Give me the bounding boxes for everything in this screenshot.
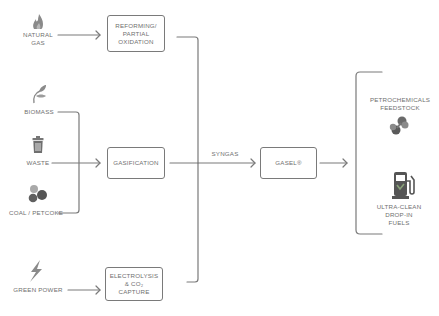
fuels-line3: FUELS [370,219,428,227]
natural-gas-label: NATURAL GAS [20,31,56,47]
gasification-box: GASIFICATION [107,147,165,179]
electrolysis-line2: & CO₂ [110,280,159,288]
connector-lines [0,0,439,316]
reforming-line1: REFORMING/ [115,22,157,30]
leaf-icon [30,84,50,104]
petrochemicals-feedstock-label: PETROCHEMICALS FEEDSTOCK [368,96,432,112]
coal-petcoke-label: COAL / PETCOKE [9,209,57,217]
electrolysis-line3: CAPTURE [110,288,159,296]
ultra-clean-fuels-label: ULTRA-CLEAN DROP-IN FUELS [370,203,428,227]
natural-gas-line2: GAS [20,39,56,47]
natural-gas-line1: NATURAL [20,31,56,39]
reforming-line2: PARTIAL [115,30,157,38]
green-power-label: GREEN POWER [12,286,64,294]
petrochemicals-line1: PETROCHEMICALS [368,96,432,104]
trash-can-icon [32,136,44,153]
petrochemicals-line2: FEEDSTOCK [368,104,432,112]
flame-icon [32,14,44,30]
fuel-pump-icon [392,172,418,200]
gasification-label: GASIFICATION [113,159,159,167]
fuels-line1: ULTRA-CLEAN [370,203,428,211]
reforming-partial-oxidation-box: REFORMING/ PARTIAL OXIDATION [107,15,165,52]
gasel-label: GASEL® [275,159,301,167]
waste-label: WASTE [22,159,54,167]
biomass-label: BIOMASS [22,108,56,116]
molecule-icon [388,114,410,138]
electrolysis-co2-capture-box: ELECTROLYSIS & CO₂ CAPTURE [105,267,163,301]
coal-lumps-icon [27,184,49,204]
reforming-line3: OXIDATION [115,38,157,46]
electrolysis-line1: ELECTROLYSIS [110,272,159,280]
gasel-box: GASEL® [260,147,317,179]
lightning-bolt-icon [28,260,44,282]
syngas-label: SYNGAS [208,150,242,158]
fuels-line2: DROP-IN [370,211,428,219]
